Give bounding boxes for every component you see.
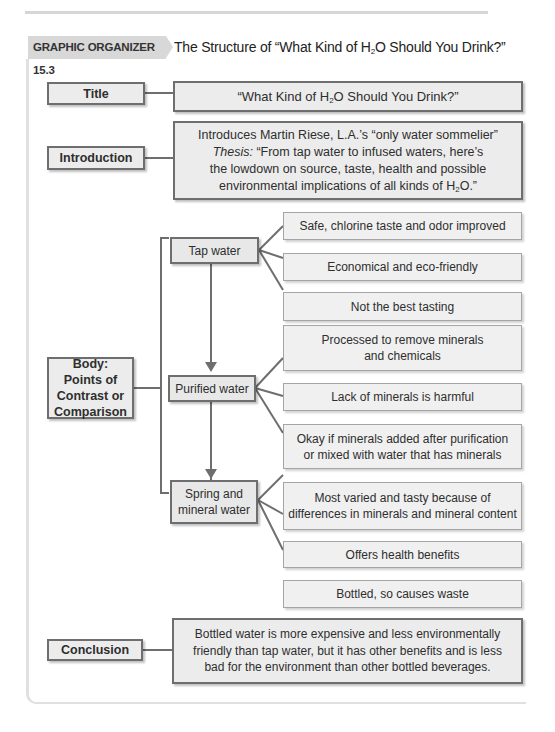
point-text: Bottled, so causes waste [336, 586, 469, 602]
point-text: Safe, chlorine taste and odor improved [299, 218, 505, 234]
category-spring-mineral-water: Spring and mineral water [170, 480, 258, 524]
title-content-text: “What Kind of H2O Should You Drink?” [237, 89, 458, 105]
conclusion-content-box: Bottled water is more expensive and less… [172, 618, 523, 684]
thesis-line-2: the lowdown on source, taste, health and… [198, 161, 498, 178]
introduction-content-box: Introduces Martin Riese, L.A.’s “only wa… [173, 121, 523, 200]
point-purified-3: Okay if minerals added after purificatio… [283, 424, 522, 469]
category-tap-water: Tap water [170, 237, 259, 264]
point-text: Economical and eco-friendly [327, 259, 478, 275]
thesis-statement: Thesis: “From tap water to infused water… [198, 144, 498, 161]
category-name: Spring and mineral water [176, 486, 252, 518]
category-name: Tap water [188, 243, 240, 259]
point-spring-3: Bottled, so causes waste [283, 580, 522, 608]
conclusion-label: Conclusion [47, 639, 143, 661]
point-spring-1: Most varied and tasty because of differe… [283, 482, 522, 530]
point-tap-1: Safe, chlorine taste and odor improved [283, 212, 522, 240]
point-tap-2: Economical and eco-friendly [283, 253, 522, 281]
point-text: Not the best tasting [351, 299, 454, 315]
point-purified-1: Processed to remove minerals and chemica… [283, 325, 522, 371]
category-purified-water: Purified water [168, 375, 256, 402]
title-label: Title [47, 82, 145, 105]
introduction-label: Introduction [47, 146, 145, 170]
point-spring-2: Offers health benefits [283, 541, 522, 568]
body-label-text: Body: Points of Contrast or Comparison [52, 356, 129, 420]
point-text: Okay if minerals added after purificatio… [290, 431, 515, 463]
title-content-box: “What Kind of H2O Should You Drink?” [173, 81, 523, 112]
point-text: Most varied and tasty because of differe… [287, 490, 518, 522]
conclusion-label-text: Conclusion [61, 642, 129, 658]
title-label-text: Title [83, 86, 108, 102]
introduction-summary: Introduces Martin Riese, L.A.’s “only wa… [198, 127, 498, 144]
introduction-label-text: Introduction [60, 150, 133, 166]
point-text: Lack of minerals is harmful [331, 389, 474, 405]
conclusion-text: Bottled water is more expensive and less… [192, 626, 503, 676]
point-text: Processed to remove minerals and chemica… [314, 332, 491, 364]
point-tap-3: Not the best tasting [283, 292, 522, 321]
body-label: Body: Points of Contrast or Comparison [47, 357, 134, 419]
thesis-line-3: environmental implications of all kinds … [198, 178, 498, 195]
point-text: Offers health benefits [346, 547, 460, 563]
category-name: Purified water [175, 381, 248, 397]
introduction-content-text: Introduces Martin Riese, L.A.’s “only wa… [198, 127, 498, 195]
point-purified-2: Lack of minerals is harmful [283, 383, 522, 411]
